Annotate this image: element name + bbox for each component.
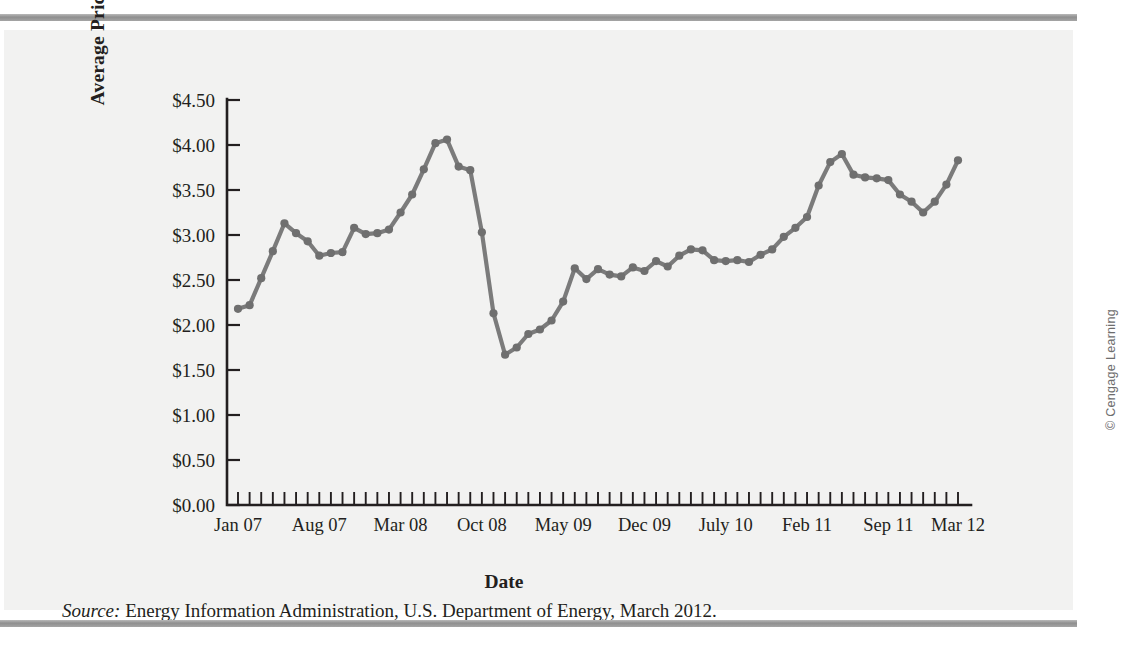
data-point xyxy=(652,257,660,265)
data-point xyxy=(234,305,242,313)
y-tick-label: $1.50 xyxy=(172,360,215,381)
y-tick-label: $4.50 xyxy=(172,90,215,111)
data-point xyxy=(280,219,288,227)
data-point xyxy=(327,249,335,257)
data-point xyxy=(664,262,672,270)
bottom-rule xyxy=(0,620,1077,627)
data-point xyxy=(408,190,416,198)
data-point xyxy=(617,272,625,280)
x-tick-label: Aug 07 xyxy=(292,515,347,535)
data-point xyxy=(838,150,846,158)
data-point xyxy=(733,256,741,264)
data-point xyxy=(803,213,811,221)
data-point xyxy=(954,156,962,164)
data-point xyxy=(478,228,486,236)
x-axis-tick-labels: Jan 07Aug 07Mar 08Oct 08May 09Dec 09July… xyxy=(214,515,985,535)
line-chart: $0.00$0.50$1.00$1.50$2.00$2.50$3.00$3.50… xyxy=(4,30,1073,610)
y-tick-label: $3.00 xyxy=(172,225,215,246)
x-tick-label: Mar 08 xyxy=(374,515,428,535)
x-tick-label: May 09 xyxy=(535,515,592,535)
x-axis-ticks xyxy=(238,492,958,505)
data-point xyxy=(873,174,881,182)
axis-lines xyxy=(227,99,971,505)
data-point xyxy=(501,351,509,359)
data-point xyxy=(385,226,393,234)
copyright-credit: © Cengage Learning xyxy=(1104,230,1118,430)
data-point xyxy=(304,237,312,245)
data-point xyxy=(257,274,265,282)
data-point xyxy=(292,229,300,237)
data-point xyxy=(687,245,695,253)
y-tick-label: $2.50 xyxy=(172,270,215,291)
data-point xyxy=(942,181,950,189)
data-point xyxy=(513,343,521,351)
data-point xyxy=(861,173,869,181)
x-tick-label: Oct 08 xyxy=(457,515,507,535)
data-point xyxy=(559,298,567,306)
x-tick-label: Mar 12 xyxy=(931,515,985,535)
data-point xyxy=(768,245,776,253)
source-caption: Source: Energy Information Administratio… xyxy=(62,600,717,622)
data-point xyxy=(698,246,706,254)
data-point xyxy=(815,181,823,189)
x-axis-title: Date xyxy=(4,571,1004,593)
data-point xyxy=(640,267,648,275)
data-point xyxy=(536,325,544,333)
data-point xyxy=(489,309,497,317)
data-point xyxy=(606,271,614,279)
data-point xyxy=(547,316,555,324)
data-point xyxy=(338,248,346,256)
data-point xyxy=(884,176,892,184)
data-point xyxy=(420,165,428,173)
data-point xyxy=(710,256,718,264)
y-axis-ticks: $0.00$0.50$1.00$1.50$2.00$2.50$3.00$3.50… xyxy=(172,90,240,516)
data-point xyxy=(443,136,451,144)
figure-root: $0.00$0.50$1.00$1.50$2.00$2.50$3.00$3.50… xyxy=(0,0,1147,668)
data-point xyxy=(362,230,370,238)
data-point xyxy=(373,229,381,237)
plot-area: $0.00$0.50$1.00$1.50$2.00$2.50$3.00$3.50… xyxy=(4,30,1073,610)
axes-group xyxy=(227,99,971,505)
x-tick-label: Sep 11 xyxy=(863,515,913,535)
y-tick-label: $0.50 xyxy=(172,450,215,471)
data-point xyxy=(896,190,904,198)
source-body: Energy Information Administration, U.S. … xyxy=(120,600,716,621)
y-axis-title-text: Average Price per Gallon xyxy=(87,0,109,105)
y-tick-label: $1.00 xyxy=(172,405,215,426)
data-series-line xyxy=(238,140,958,355)
data-point xyxy=(826,158,834,166)
data-point xyxy=(455,163,463,171)
data-point xyxy=(756,251,764,259)
x-tick-label: July 10 xyxy=(699,515,753,535)
data-point xyxy=(431,139,439,147)
data-point xyxy=(849,171,857,179)
data-point xyxy=(722,257,730,265)
data-point xyxy=(524,330,532,338)
x-tick-label: Jan 07 xyxy=(214,515,262,535)
data-point xyxy=(791,224,799,232)
x-tick-label: Dec 09 xyxy=(618,515,671,535)
data-point xyxy=(780,233,788,241)
y-axis-title: Average Price per Gallon xyxy=(83,0,113,178)
data-point xyxy=(745,258,753,266)
data-point xyxy=(907,198,915,206)
chart-panel: $0.00$0.50$1.00$1.50$2.00$2.50$3.00$3.50… xyxy=(4,30,1073,610)
data-point xyxy=(582,275,590,283)
data-point xyxy=(594,265,602,273)
y-tick-label: $2.00 xyxy=(172,315,215,336)
data-point xyxy=(571,264,579,272)
data-point xyxy=(350,224,358,232)
y-tick-label: $4.00 xyxy=(172,135,215,156)
data-point xyxy=(269,247,277,255)
data-point xyxy=(931,198,939,206)
data-point xyxy=(315,252,323,260)
data-point xyxy=(246,301,254,309)
data-point xyxy=(629,263,637,271)
data-point xyxy=(675,252,683,260)
x-tick-label: Feb 11 xyxy=(782,515,832,535)
y-tick-label: $3.50 xyxy=(172,180,215,201)
data-point xyxy=(396,208,404,216)
data-point xyxy=(466,166,474,174)
y-tick-label: $0.00 xyxy=(172,495,215,516)
top-rule xyxy=(0,14,1077,21)
